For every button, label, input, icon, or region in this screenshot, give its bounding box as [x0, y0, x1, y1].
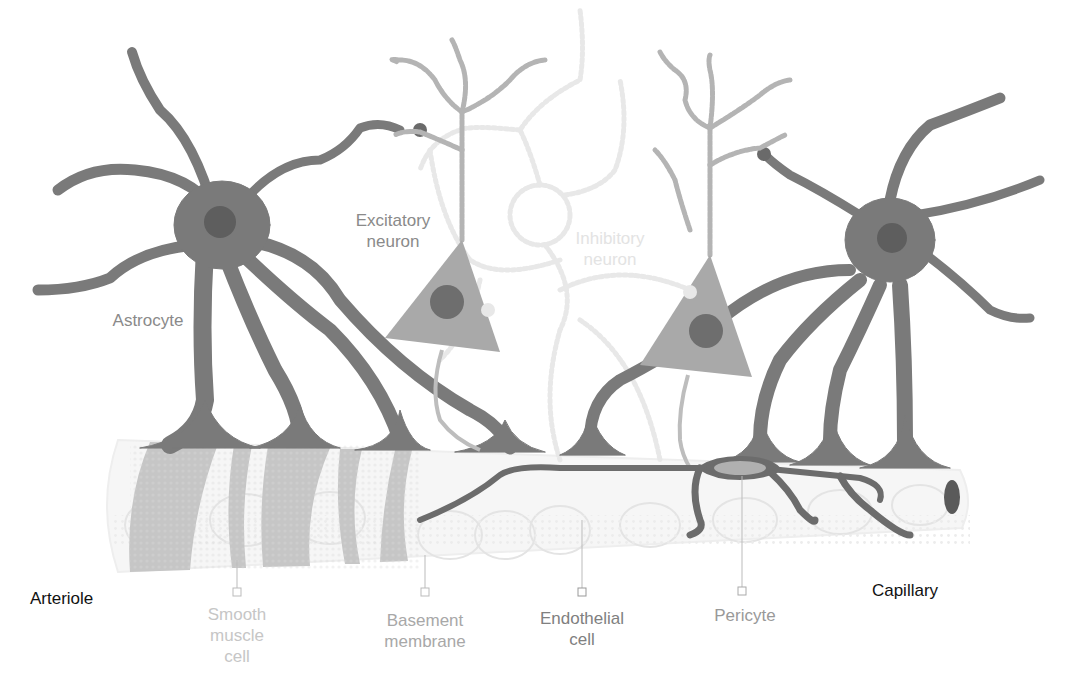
excitatory-neuron-nucleus	[430, 285, 464, 319]
label-inhibitory-neuron: Inhibitory neuron	[555, 228, 665, 270]
label-astrocyte: Astrocyte	[88, 310, 208, 331]
astrocyte-left	[38, 52, 545, 452]
label-basement-membrane: Basement membrane	[365, 610, 485, 652]
synapse-left	[481, 303, 495, 317]
label-pericyte: Pericyte	[700, 605, 790, 626]
capillary-lumen	[944, 480, 960, 514]
pericyte-nucleus	[714, 461, 766, 475]
astrocyte-right-nucleus	[877, 223, 907, 253]
astrocyte-right	[560, 98, 1040, 468]
excitatory-neuron-right-axon	[680, 375, 690, 468]
label-endothelial-cell: Endothelial cell	[522, 608, 642, 650]
label-capillary: Capillary	[850, 580, 960, 601]
excitatory-neuron-right-soma	[640, 255, 752, 377]
label-excitatory-neuron: Excitatory neuron	[338, 210, 448, 252]
synapse-right	[683, 285, 697, 299]
label-arteriole: Arteriole	[30, 588, 120, 609]
excitatory-neuron-right-nucleus	[689, 314, 723, 348]
astrocyte-left-nucleus	[204, 206, 236, 238]
label-smooth-muscle-cell: Smooth muscle cell	[187, 604, 287, 667]
